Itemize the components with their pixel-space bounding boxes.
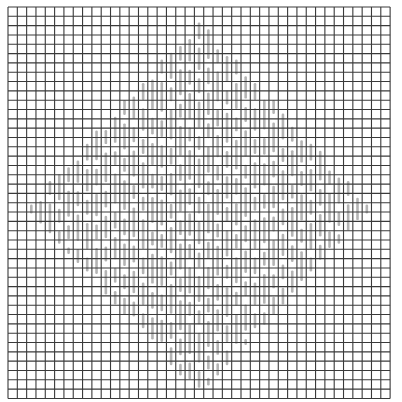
gray-bar xyxy=(207,267,210,289)
gray-bar xyxy=(151,118,154,135)
gray-bar xyxy=(114,174,117,204)
gray-bar xyxy=(142,257,145,274)
gray-bar xyxy=(188,93,191,119)
gray-bar xyxy=(291,245,294,262)
gray-bar xyxy=(216,72,219,102)
gray-bar xyxy=(300,194,303,220)
gray-bar xyxy=(291,207,294,237)
gray-bar xyxy=(216,110,219,127)
gray-bar xyxy=(235,83,238,109)
gray-bar xyxy=(49,203,52,233)
gray-bar xyxy=(338,177,341,203)
gray-bar xyxy=(58,174,61,200)
gray-bar xyxy=(244,305,247,331)
gray-bar xyxy=(300,140,303,162)
gray-bar xyxy=(58,231,61,244)
gray-bar xyxy=(105,270,108,295)
gray-bar xyxy=(188,244,191,259)
gray-bar xyxy=(216,49,219,63)
gray-bar xyxy=(123,244,126,266)
gray-bar xyxy=(235,257,238,283)
gray-bar xyxy=(198,222,201,244)
gray-bar xyxy=(198,197,201,214)
gray-bar xyxy=(95,225,98,240)
gray-bar xyxy=(263,194,266,209)
gray-bar xyxy=(86,223,89,249)
gray-bar xyxy=(133,271,136,293)
gray-bar xyxy=(160,82,163,112)
gray-bar xyxy=(235,178,238,195)
grid-figure xyxy=(0,0,402,402)
gray-bar xyxy=(160,320,163,342)
gray-bar xyxy=(123,298,126,315)
gray-bar xyxy=(188,128,191,142)
gray-bar xyxy=(86,169,89,191)
gray-bar xyxy=(226,265,229,279)
gray-bar xyxy=(123,123,126,149)
gray-bar xyxy=(133,127,136,142)
gray-bar xyxy=(95,248,98,274)
gray-bar xyxy=(123,100,126,115)
gray-bar xyxy=(179,364,182,376)
gray-bar xyxy=(263,274,266,304)
gray-bar xyxy=(356,198,359,220)
gray-bar xyxy=(226,56,229,82)
gray-bar xyxy=(142,108,145,130)
gray-bar xyxy=(86,258,89,272)
gray-bar xyxy=(77,249,80,263)
gray-bar xyxy=(114,268,117,283)
gray-bar xyxy=(235,292,238,306)
gray-bar xyxy=(170,284,173,314)
gray-bar xyxy=(133,246,136,263)
gray-bar xyxy=(328,193,331,223)
gray-bar xyxy=(310,223,313,249)
gray-bar xyxy=(272,186,275,208)
gray-bar xyxy=(151,143,154,165)
gray-bar xyxy=(291,127,294,142)
gray-bar xyxy=(114,291,117,305)
gray-bar xyxy=(235,203,238,225)
gray-bar xyxy=(291,270,294,292)
gray-bar xyxy=(160,60,163,74)
gray-bar xyxy=(282,234,285,256)
gray-bar xyxy=(179,243,182,269)
gray-bar xyxy=(95,194,98,216)
gray-bar xyxy=(198,310,201,324)
gray-bar xyxy=(282,148,285,162)
gray-bar xyxy=(338,212,341,226)
gray-bar xyxy=(151,174,154,189)
gray-bar xyxy=(151,317,154,339)
gray-bar xyxy=(105,216,108,238)
gray-bar xyxy=(179,339,182,356)
gray-bar xyxy=(151,80,154,110)
gray-bar xyxy=(207,93,210,115)
gray-bar xyxy=(198,253,201,268)
gray-bar xyxy=(188,213,191,235)
gray-bar xyxy=(226,207,229,222)
gray-bar xyxy=(160,256,163,286)
gray-bar xyxy=(188,267,191,293)
gray-bar xyxy=(142,219,145,249)
gray-bar xyxy=(216,166,219,181)
gray-bar xyxy=(244,76,247,98)
gray-bar xyxy=(254,257,257,274)
gray-bar xyxy=(216,363,219,375)
gray-bar xyxy=(244,165,247,179)
gray-bar xyxy=(188,302,191,316)
gray-bar xyxy=(310,258,313,272)
gray-bar xyxy=(170,347,173,365)
gray-bar xyxy=(151,231,154,245)
gray-bar xyxy=(142,197,145,211)
gray-bar xyxy=(179,189,182,211)
gray-bar xyxy=(114,117,117,143)
gray-bar xyxy=(123,158,126,172)
gray-bar xyxy=(291,185,294,199)
gray-bar xyxy=(254,313,257,328)
gray-bar xyxy=(67,225,70,239)
gray-bar xyxy=(170,322,173,339)
gray-bar xyxy=(188,324,191,354)
gray-bar xyxy=(170,204,173,219)
gray-bar xyxy=(77,215,80,241)
gray-bar xyxy=(198,136,201,150)
gray-bar xyxy=(123,180,126,210)
